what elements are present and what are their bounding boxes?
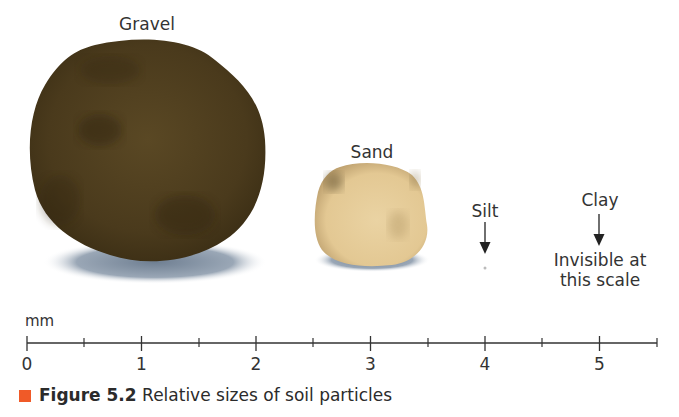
gravel-particle [30,40,266,262]
figure-number: Figure 5.2 [39,385,137,405]
clay-label: Clay [581,190,618,210]
tick-label-1: 1 [136,354,147,374]
clay-note-line1: Invisible at [554,250,647,270]
clay-arrow-icon [594,234,605,246]
caption-marker-icon [19,390,31,402]
tick-label-5: 5 [594,354,605,374]
tick-label-4: 4 [480,354,491,374]
sand-label: Sand [351,142,394,162]
figure-caption: Figure 5.2 Relative sizes of soil partic… [19,385,392,405]
tick-label-2: 2 [251,354,262,374]
tick-label-0: 0 [22,354,33,374]
silt-particle [484,267,487,270]
scale-bar [0,330,679,360]
tick-label-3: 3 [365,354,376,374]
silt-arrow-icon [480,242,491,254]
caption-text: Relative sizes of soil particles [142,385,392,405]
scale-unit-label: mm [25,312,54,330]
silt-label: Silt [472,201,499,221]
clay-note: Invisible at this scale [554,250,647,290]
clay-note-line2: this scale [554,270,647,290]
